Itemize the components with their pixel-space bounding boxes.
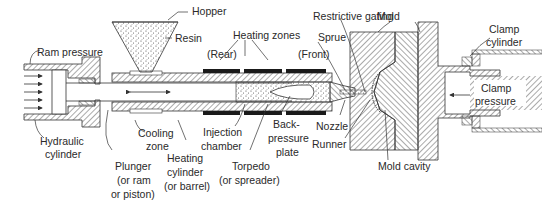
label-injection-chamber-1: Injection <box>203 126 242 138</box>
label-clamp-cylinder-2: cylinder <box>486 36 522 48</box>
label-plunger-1: Plunger <box>115 160 151 172</box>
label-cooling-zone-2: zone <box>146 140 169 152</box>
label-hydraulic-cylinder-2: cylinder <box>45 148 81 160</box>
label-clamp-pressure-2: pressure <box>475 95 516 107</box>
hopper <box>112 22 178 72</box>
label-plunger-2: (or ram <box>117 174 151 186</box>
label-hydraulic-cylinder-1: Hydraulic <box>40 135 84 147</box>
label-runner: Runner <box>312 138 346 150</box>
injection-molding-diagram: Ram pressure Hydraulic cylinder Hopper R… <box>0 0 542 203</box>
label-nozzle: Nozzle <box>316 120 348 132</box>
label-clamp-pressure-1: Clamp <box>481 82 511 94</box>
injection-chamber <box>236 82 330 102</box>
label-clamp-cylinder-1: Clamp <box>489 23 519 35</box>
label-mold: Mold <box>377 10 400 22</box>
label-back-pressure-3: plate <box>276 146 299 158</box>
label-heating-cylinder-2: cylinder <box>167 166 203 178</box>
label-ram-pressure: Ram pressure <box>37 46 103 58</box>
label-heating-cylinder-3: (or barrel) <box>164 180 210 192</box>
label-heating-zones: Heating zones <box>233 29 300 41</box>
label-torpedo-1: Torpedo <box>232 160 270 172</box>
label-resin: Resin <box>175 32 202 44</box>
clamp-platen <box>418 22 542 160</box>
label-sprue: Sprue <box>318 31 346 43</box>
ram-pressure-arrows <box>24 76 42 108</box>
label-hopper: Hopper <box>192 5 226 17</box>
label-cooling-zone-1: Cooling <box>138 127 174 139</box>
label-torpedo-2: (or spreader) <box>219 174 280 186</box>
label-front: (Front) <box>298 48 330 60</box>
label-back-pressure-2: pressure <box>268 132 309 144</box>
label-plunger-3: or piston) <box>111 188 155 200</box>
label-injection-chamber-2: chamber <box>201 140 242 152</box>
label-mold-cavity: Mold cavity <box>378 160 431 172</box>
label-rear: (Rear) <box>207 48 237 60</box>
label-heating-cylinder-1: Heating <box>167 152 203 164</box>
label-back-pressure-1: Back- <box>273 118 300 130</box>
